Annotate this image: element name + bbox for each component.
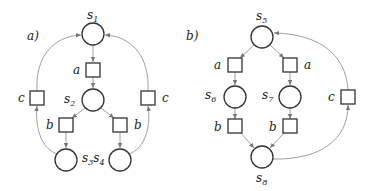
- transition-c: [341, 90, 355, 104]
- label-b-left: b: [46, 118, 54, 132]
- label-s6: s6: [205, 88, 216, 104]
- place-s1: [82, 23, 104, 45]
- label-b-right: b: [134, 118, 142, 132]
- label-c: c: [328, 90, 335, 104]
- transition-b-left: [228, 119, 242, 133]
- label-b-right: b: [269, 120, 277, 134]
- place-s8: [251, 146, 273, 168]
- place-s6: [224, 86, 246, 108]
- place-s3: [55, 149, 77, 171]
- edge-s5-to-ar: [270, 45, 284, 58]
- transition-a-right: [283, 58, 297, 72]
- label-s8: s8: [256, 171, 267, 187]
- panel-a-label: a): [27, 29, 39, 43]
- label-s2: s2: [64, 92, 75, 108]
- label-c-left: c: [18, 91, 25, 105]
- transition-b-right: [113, 118, 127, 132]
- transition-c-left: [30, 91, 44, 105]
- edge-s2-to-bl: [72, 108, 85, 118]
- label-a-right: a: [304, 58, 311, 72]
- label-c-right: c: [162, 91, 169, 105]
- label-s1: s1: [87, 8, 98, 24]
- label-s5: s5: [256, 9, 267, 25]
- petri-net-figure: a) s1 a s2 c c b b s3s4: [0, 0, 373, 191]
- label-s7: s7: [262, 88, 274, 104]
- label-a: a: [73, 63, 80, 77]
- panel-a: a) s1 a s2 c c b b s3s4: [18, 8, 169, 171]
- transition-a-left: [228, 58, 242, 72]
- place-s4: [109, 149, 131, 171]
- panel-b: b) s5 a a s6 s7 c b b s8: [186, 9, 355, 187]
- transition-c-right: [141, 91, 155, 105]
- place-s2: [82, 89, 104, 111]
- transition-b-right: [283, 119, 297, 133]
- label-b-left: b: [214, 120, 222, 134]
- edge-cr-to-s1: [105, 35, 148, 91]
- edge-s2-to-br: [101, 108, 114, 118]
- transition-a: [86, 63, 100, 77]
- label-s3s4: s3s4: [82, 151, 105, 167]
- edge-s5-to-al: [240, 45, 254, 58]
- transition-b-left: [59, 118, 73, 132]
- edge-bl-to-s8: [241, 133, 254, 148]
- label-a-left: a: [214, 58, 221, 72]
- place-s7: [279, 86, 301, 108]
- edge-br-to-s8: [270, 133, 284, 148]
- panel-b-label: b): [186, 29, 199, 43]
- place-s5: [251, 26, 273, 48]
